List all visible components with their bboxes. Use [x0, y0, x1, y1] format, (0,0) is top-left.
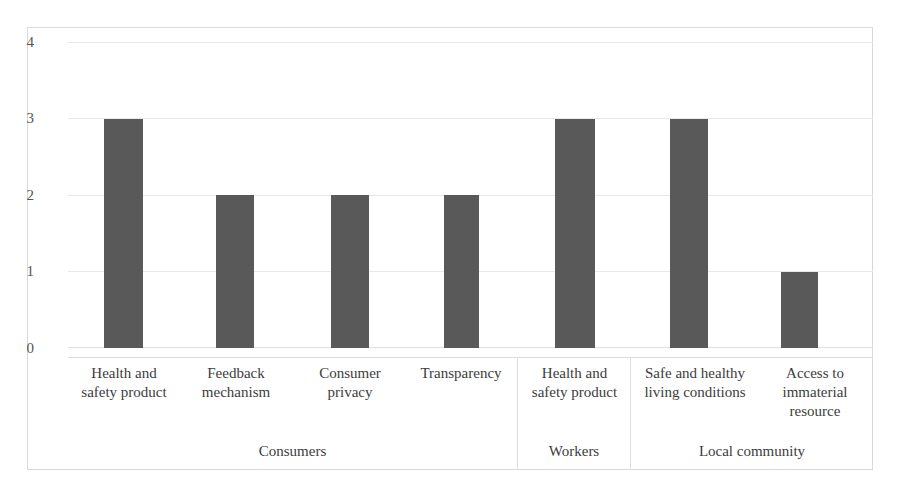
plot-area [68, 42, 873, 348]
y-tick-label-1: 1 [0, 264, 34, 279]
y-tick-label-2: 2 [0, 188, 34, 203]
category-label-line-1: Feedback [180, 364, 292, 383]
y-tick-label-4: 4 [0, 35, 34, 50]
category-label-health-and-safety-product-consumers: Health and safety product [68, 364, 180, 402]
category-label-feedback-mechanism: Feedback mechanism [180, 364, 292, 402]
bar-access-to-immaterial-resource[interactable] [781, 272, 818, 348]
category-label-line-1: Consumer [294, 364, 406, 383]
category-label-line-2: mechanism [180, 383, 292, 402]
group-name-workers: Workers [518, 442, 630, 460]
category-label-line-2: immaterial [759, 383, 871, 402]
bar-health-and-safety-product-consumers[interactable] [104, 119, 143, 348]
gridline-4 [68, 42, 873, 43]
bar-health-and-safety-product-workers[interactable] [555, 119, 595, 348]
group-workers: Health and safety product Workers [517, 358, 630, 470]
group-name-consumers: Consumers [68, 442, 517, 460]
y-tick-label-3: 3 [0, 111, 34, 126]
category-label-line-2: safety product [68, 383, 180, 402]
group-consumers: Health and safety product Feedback mecha… [68, 358, 517, 470]
gridline-3 [68, 118, 873, 119]
bar-chart: 4 3 2 1 0 Health and safety product Feed… [0, 0, 906, 501]
category-label-line-1: Health and [68, 364, 180, 383]
category-label-line-1: Safe and healthy [631, 364, 759, 383]
category-label-access-to-immaterial-resource: Access to immaterial resource [759, 364, 871, 421]
category-label-line-2: safety product [518, 383, 631, 402]
category-label-table: Health and safety product Feedback mecha… [68, 357, 873, 469]
category-label-safe-and-healthy-living-conditions: Safe and healthy living conditions [631, 364, 759, 402]
category-label-line-1: Access to [759, 364, 871, 383]
category-label-line-1: Health and [518, 364, 631, 383]
group-name-local-community: Local community [631, 442, 873, 460]
bar-safe-and-healthy-living-conditions[interactable] [670, 119, 708, 348]
group-local-community: Safe and healthy living conditions Acces… [630, 358, 873, 470]
category-label-health-and-safety-product-workers: Health and safety product [518, 364, 631, 402]
category-label-line-3: resource [759, 402, 871, 421]
bar-consumer-privacy[interactable] [331, 195, 369, 348]
category-label-line-1: Transparency [405, 364, 517, 383]
category-label-line-2: living conditions [631, 383, 759, 402]
category-label-consumer-privacy: Consumer privacy [294, 364, 406, 402]
category-label-transparency: Transparency [405, 364, 517, 383]
y-tick-label-0: 0 [0, 341, 34, 356]
category-label-line-2: privacy [294, 383, 406, 402]
bar-transparency[interactable] [444, 195, 479, 348]
bar-feedback-mechanism[interactable] [216, 195, 254, 348]
